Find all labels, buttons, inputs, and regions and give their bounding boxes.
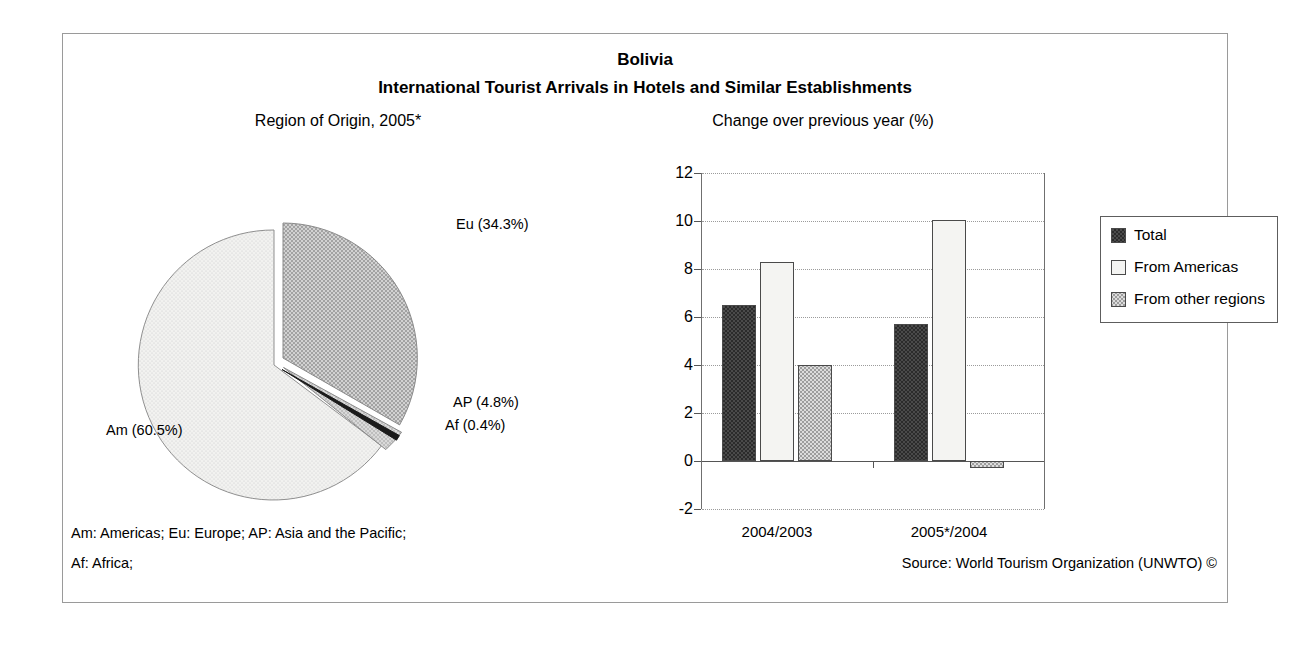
legend-item-from-americas[interactable]: From Americas	[1111, 258, 1238, 276]
legend-swatch-from-other-regions	[1111, 292, 1126, 307]
abbreviation-note-line-1: Am: Americas; Eu: Europe; AP: Asia and t…	[71, 525, 406, 541]
legend-item-from-other-regions[interactable]: From other regions	[1111, 290, 1265, 308]
pie-label-asia-pacific: AP (4.8%)	[453, 394, 519, 410]
pie-chart-svg	[83, 144, 603, 504]
y-axis-tick-mark	[694, 173, 701, 174]
bar-chart-subtitle: Change over previous year (%)	[623, 112, 1023, 130]
bar-total-20042003[interactable]	[722, 305, 756, 461]
bar-from-americas-20042003[interactable]	[760, 262, 794, 461]
bar-from-other-regions-20052004[interactable]	[970, 461, 1004, 468]
page-title: Bolivia	[63, 50, 1227, 70]
y-axis-tick-label: 12	[633, 164, 693, 182]
legend-swatch-from-americas	[1111, 260, 1126, 275]
y-axis-tick-mark	[694, 461, 701, 462]
legend-label-from-other-regions: From other regions	[1134, 290, 1265, 308]
source-note: Source: World Tourism Organization (UNWT…	[902, 555, 1217, 571]
chart-frame: Bolivia International Tourist Arrivals i…	[62, 33, 1228, 603]
gridline	[702, 269, 1044, 270]
y-axis-tick-label: 6	[633, 308, 693, 326]
y-axis-tick-label: 0	[633, 452, 693, 470]
pie-label-americas: Am (60.5%)	[106, 422, 183, 438]
y-axis-tick-mark	[694, 365, 701, 366]
legend-item-total[interactable]: Total	[1111, 226, 1167, 244]
legend-swatch-total	[1111, 228, 1126, 243]
y-axis-tick-mark	[694, 317, 701, 318]
chart-legend: Total From Americas From other regions	[1100, 216, 1278, 323]
bar-total-20052004[interactable]	[894, 324, 928, 461]
x-axis-tick-label: 2005*/2004	[911, 523, 988, 540]
pie-chart: Eu (34.3%) AP (4.8%) Af (0.4%) Am (60.5%…	[83, 144, 603, 504]
pie-label-africa: Af (0.4%)	[445, 417, 505, 433]
abbreviation-note-line-2: Af: Africa;	[71, 555, 133, 571]
bar-from-other-regions-20042003[interactable]	[798, 365, 832, 461]
gridline	[702, 509, 1044, 510]
y-axis-tick-mark	[694, 221, 701, 222]
y-axis-tick-mark	[694, 413, 701, 414]
x-axis-tick-label: 2004/2003	[742, 523, 813, 540]
bar-from-americas-20052004[interactable]	[932, 220, 966, 461]
y-axis-tick-label: 2	[633, 404, 693, 422]
pie-chart-subtitle: Region of Origin, 2005*	[173, 112, 503, 130]
legend-label-total: Total	[1134, 226, 1167, 244]
bar-chart: 121086420-2 2004/20032005*/2004 Total Fr…	[623, 144, 1223, 564]
x-axis-zero-tick	[873, 461, 874, 468]
legend-label-from-americas: From Americas	[1134, 258, 1238, 276]
chart-subtitle: International Tourist Arrivals in Hotels…	[63, 78, 1227, 98]
y-axis-tick-mark	[694, 509, 701, 510]
y-axis-tick-label: 10	[633, 212, 693, 230]
y-axis-tick-label: -2	[633, 500, 693, 518]
y-axis-tick-mark	[694, 269, 701, 270]
pie-label-europe: Eu (34.3%)	[456, 216, 529, 232]
y-axis-tick-label: 8	[633, 260, 693, 278]
gridline	[702, 173, 1044, 174]
gridline	[702, 221, 1044, 222]
y-axis-tick-label: 4	[633, 356, 693, 374]
